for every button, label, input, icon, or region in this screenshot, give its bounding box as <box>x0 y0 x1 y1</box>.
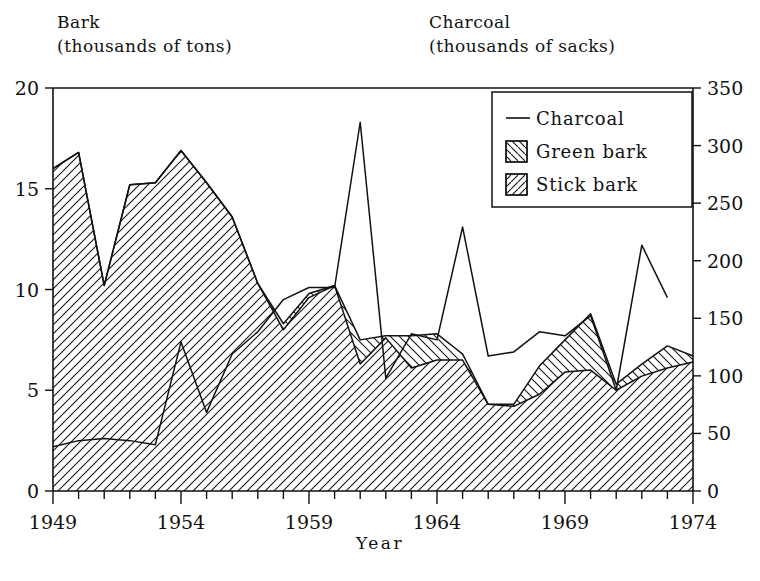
y2-axis-tick-label: 200 <box>707 250 743 272</box>
x-axis-tick-label: 1959 <box>285 511 333 533</box>
right-axis-header-line2: (thousands of sacks) <box>429 36 615 56</box>
y2-axis-tick-label: 250 <box>707 192 743 214</box>
left-axis-header-line2: (thousands of tons) <box>57 36 232 56</box>
x-axis-tick-label: 1974 <box>669 511 717 533</box>
legend-item-label: Stick bark <box>536 174 638 195</box>
y2-axis-tick-label: 50 <box>707 422 731 444</box>
x-axis-label: Year <box>355 533 404 553</box>
y2-axis-tick-label: 300 <box>707 135 743 157</box>
y2-axis-tick-label: 150 <box>707 307 743 329</box>
x-axis-tick-label: 1949 <box>29 511 77 533</box>
legend-item-label: Green bark <box>536 141 648 162</box>
chart-legend: CharcoalGreen barkStick bark <box>492 92 692 207</box>
right-axis-header-line1: Charcoal <box>429 12 511 32</box>
legend-item-label: Charcoal <box>536 108 625 129</box>
chart-figure: Bark (thousands of tons) Charcoal (thous… <box>0 0 760 581</box>
chart-canvas: Bark (thousands of tons) Charcoal (thous… <box>0 0 760 581</box>
y2-axis-tick-label: 0 <box>707 480 719 502</box>
left-axis-header-line1: Bark <box>57 12 100 32</box>
y-axis-tick-label: 15 <box>15 178 39 200</box>
y2-axis-tick-label: 100 <box>707 365 743 387</box>
x-axis-tick-label: 1969 <box>541 511 589 533</box>
legend-stick-bark-swatch <box>506 174 527 195</box>
x-axis-tick-label: 1954 <box>157 511 205 533</box>
y-axis-tick-label: 0 <box>27 480 39 502</box>
legend-green-bark-swatch <box>506 141 527 162</box>
y-axis-tick-label: 5 <box>27 379 39 401</box>
y-axis-tick-label: 10 <box>15 279 39 301</box>
y2-axis-tick-label: 350 <box>707 77 743 99</box>
x-axis-tick-label: 1964 <box>413 511 461 533</box>
y-axis-tick-label: 20 <box>15 77 39 99</box>
